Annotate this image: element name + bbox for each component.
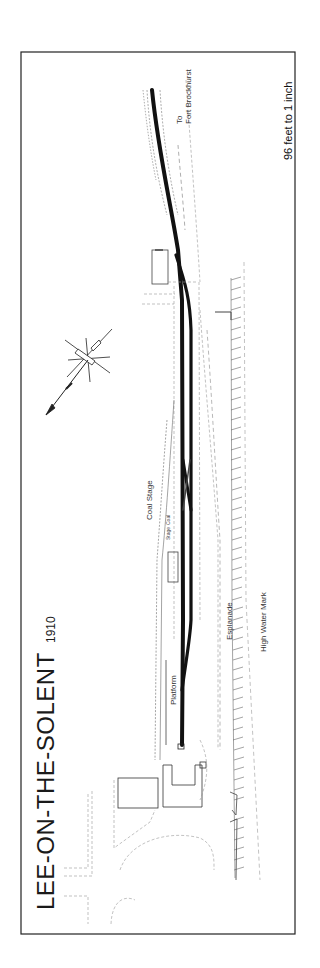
station-buildings <box>118 762 206 808</box>
high-water-mark-label: High Water Mark <box>259 592 268 652</box>
esplanade-label: Esplanade <box>225 602 234 640</box>
map-year: 1910 <box>44 616 58 643</box>
compass-icon <box>46 329 112 415</box>
coal-stage-small-2: Stage <box>165 527 171 540</box>
railway-track <box>152 90 191 745</box>
map-title: LEE-ON-THE-SOLENT <box>32 652 60 910</box>
coal-stage-small-1: Coal <box>165 515 171 525</box>
destination-label: Fort Brockhurst <box>184 69 193 124</box>
scale-label: 96 feet to 1 inch <box>282 82 294 160</box>
high-water-mark-hatching <box>215 262 260 880</box>
goods-shed <box>152 250 168 284</box>
coal-stage-embankment <box>155 400 174 760</box>
platform-label: Platform <box>169 675 178 705</box>
platform <box>168 552 178 582</box>
coal-stage-label: Coal Stage <box>145 480 154 520</box>
to-label: To <box>175 116 184 124</box>
road-outline <box>142 80 218 748</box>
road-bottom <box>64 740 214 924</box>
